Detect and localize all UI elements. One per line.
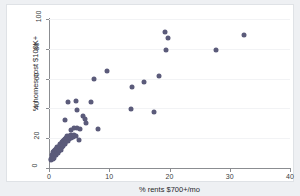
data-point <box>242 32 247 37</box>
data-point <box>214 48 219 53</box>
gridline-horizontal <box>49 108 290 109</box>
data-point <box>84 120 89 125</box>
y-axis-tick <box>46 79 49 80</box>
data-point <box>151 110 156 115</box>
gridline-horizontal <box>49 49 290 50</box>
data-point <box>105 68 110 73</box>
x-axis-tick-label: 0 <box>47 173 51 180</box>
data-point <box>62 118 67 123</box>
y-axis-tick <box>46 19 49 20</box>
gridline-horizontal <box>49 19 290 20</box>
y-axis-tick <box>46 49 49 50</box>
x-axis-tick <box>290 169 291 172</box>
data-point <box>141 79 146 84</box>
data-point <box>95 126 100 131</box>
scatter-plot-figure: 020406080100010203040 % rents $700+/mo %… <box>0 0 300 196</box>
data-point <box>88 99 93 104</box>
data-point <box>77 137 82 142</box>
gridline-horizontal <box>49 138 290 139</box>
x-axis-tick-label: 30 <box>226 173 234 180</box>
data-point <box>73 98 78 103</box>
data-point <box>75 107 80 112</box>
x-axis-tick-label: 40 <box>286 173 294 180</box>
plot-card: 020406080100010203040 % rents $700+/mo %… <box>6 4 294 182</box>
y-axis-tick-label: 0 <box>33 162 37 169</box>
data-point <box>66 99 71 104</box>
gridline-horizontal <box>49 79 290 80</box>
plot-area <box>49 19 290 168</box>
y-axis-tick-label-text: 0 <box>31 164 38 168</box>
x-axis-tick-label: 20 <box>166 173 174 180</box>
data-point <box>91 77 96 82</box>
data-point <box>78 126 83 131</box>
x-axis-tick <box>230 169 231 172</box>
x-axis-tick <box>49 169 50 172</box>
y-axis-line <box>49 18 50 169</box>
data-point <box>166 36 171 41</box>
y-axis-tick <box>46 138 49 139</box>
data-point <box>156 73 161 78</box>
x-axis-tick <box>109 169 110 172</box>
x-axis-tick-label: 10 <box>105 173 113 180</box>
data-point <box>128 106 133 111</box>
x-axis-tick <box>170 169 171 172</box>
y-axis-title: % homes cost $100K+ <box>31 0 40 149</box>
y-axis-tick <box>46 108 49 109</box>
data-point <box>162 29 167 34</box>
data-point <box>130 84 135 89</box>
data-point <box>164 47 169 52</box>
x-axis-title: % rents $700+/mo <box>49 185 290 194</box>
